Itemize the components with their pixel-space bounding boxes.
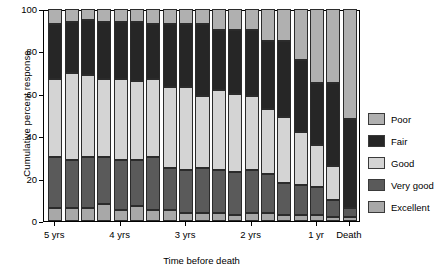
bar-segment-fair xyxy=(294,60,308,132)
bar-segment-fair xyxy=(326,83,340,166)
bar-segment-fair xyxy=(343,119,357,208)
bar-segment-fair xyxy=(81,20,95,75)
bar-segment-very-good xyxy=(310,187,324,215)
bar-segment-very-good xyxy=(343,208,357,216)
bar-segment-very-good xyxy=(130,160,144,207)
bar-segment-excellent xyxy=(163,210,177,221)
x-tick-mark xyxy=(185,222,186,226)
y-tick-label: 20 xyxy=(11,175,37,185)
bar-segment-fair xyxy=(163,24,177,88)
y-tick-label: 60 xyxy=(11,90,37,100)
legend-item: Excellent xyxy=(368,196,446,218)
bar-segment-fair xyxy=(310,83,324,144)
y-tick-label: 40 xyxy=(11,132,37,142)
legend-label: Poor xyxy=(391,114,411,125)
x-tick-label: 4 yrs xyxy=(90,229,150,240)
bar-segment-excellent xyxy=(326,217,340,221)
bar-segment-very-good xyxy=(48,157,62,208)
bar-group xyxy=(245,11,259,221)
bar-segment-fair xyxy=(277,41,291,117)
bar-segment-excellent xyxy=(310,215,324,221)
bar-segment-very-good xyxy=(81,157,95,208)
legend-swatch-icon xyxy=(368,113,385,125)
bar-segment-very-good xyxy=(195,168,209,213)
y-tick-mark xyxy=(39,222,43,223)
bar-group xyxy=(228,11,242,221)
legend-label: Excellent xyxy=(391,202,430,213)
bar-segment-very-good xyxy=(146,157,160,210)
bar-segment-excellent xyxy=(146,210,160,221)
bar-segment-poor xyxy=(179,9,193,24)
bar-segment-poor xyxy=(277,9,291,41)
bar-segment-good xyxy=(163,87,177,168)
bar-segment-excellent xyxy=(179,213,193,221)
bar-segment-poor xyxy=(326,9,340,83)
x-tick-label: Death xyxy=(319,229,379,240)
legend-item: Good xyxy=(368,152,446,174)
bar-group xyxy=(261,11,275,221)
bar-segment-poor xyxy=(195,9,209,24)
bar-group xyxy=(277,11,291,221)
bar-segment-poor xyxy=(245,9,259,30)
bar-segment-very-good xyxy=(277,183,291,215)
bar-segment-excellent xyxy=(97,204,111,221)
bar-segment-very-good xyxy=(212,170,226,212)
bar-segment-good xyxy=(277,117,291,183)
bar-segment-good xyxy=(294,132,308,185)
bar-segment-poor xyxy=(81,9,95,20)
bar-group xyxy=(179,11,193,221)
chart-legend: PoorFairGoodVery goodExcellent xyxy=(368,108,446,218)
bar-segment-fair xyxy=(195,24,209,96)
stacked-bar-chart-figure: Cumulative percent response 020406080100… xyxy=(0,0,448,276)
legend-item: Very good xyxy=(368,174,446,196)
x-tick-label: 5 yrs xyxy=(24,229,84,240)
y-tick-label: 100 xyxy=(11,5,37,15)
bar-segment-very-good xyxy=(228,172,242,214)
x-axis-title: Time before death xyxy=(43,255,360,266)
bar-segment-excellent xyxy=(130,206,144,221)
legend-label: Good xyxy=(391,158,414,169)
bar-segment-poor xyxy=(146,9,160,24)
bar-segment-poor xyxy=(212,9,226,30)
bar-segment-excellent xyxy=(294,215,308,221)
bar-segment-fair xyxy=(261,41,275,109)
bar-segment-very-good xyxy=(97,157,111,204)
legend-swatch-icon xyxy=(368,179,385,191)
bar-segment-very-good xyxy=(163,168,177,210)
bar-group xyxy=(294,11,308,221)
bar-segment-fair xyxy=(48,24,62,79)
bar-segment-good xyxy=(114,79,128,160)
bar-segment-good xyxy=(212,90,226,171)
bar-segment-poor xyxy=(97,9,111,22)
bar-segment-poor xyxy=(294,9,308,60)
bar-segment-very-good xyxy=(114,160,128,211)
bar-segment-good xyxy=(245,96,259,170)
bar-group xyxy=(48,11,62,221)
bar-group xyxy=(326,11,340,221)
bar-segment-fair xyxy=(245,30,259,96)
bar-segment-very-good xyxy=(245,170,259,212)
legend-swatch-icon xyxy=(368,135,385,147)
bar-segment-excellent xyxy=(65,208,79,221)
x-tick-mark xyxy=(120,222,121,226)
bar-segment-fair xyxy=(146,24,160,79)
bar-segment-good xyxy=(48,79,62,157)
bar-segment-excellent xyxy=(277,215,291,221)
bar-segment-excellent xyxy=(81,208,95,221)
bar-segment-excellent xyxy=(261,213,275,221)
bar-segment-good xyxy=(130,81,144,159)
bar-group xyxy=(97,11,111,221)
bar-group xyxy=(343,11,357,221)
bar-segment-poor xyxy=(130,9,144,22)
legend-item: Poor xyxy=(368,108,446,130)
bar-segment-fair xyxy=(212,30,226,89)
x-tick-mark xyxy=(251,222,252,226)
bar-segment-good xyxy=(195,96,209,168)
bar-segment-poor xyxy=(114,9,128,22)
bar-segment-good xyxy=(179,87,193,170)
bar-segment-poor xyxy=(261,9,275,41)
bar-segment-fair xyxy=(97,22,111,79)
bar-segment-very-good xyxy=(261,174,275,212)
x-tick-label: 3 yrs xyxy=(155,229,215,240)
legend-swatch-icon xyxy=(368,201,385,213)
